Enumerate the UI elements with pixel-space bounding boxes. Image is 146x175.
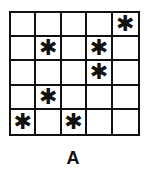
asterisk-grid: ✱ ✱ ✱ ✱ ✱ ✱ ✱ <box>9 11 140 136</box>
grid-cell-r1-c3 <box>62 13 87 37</box>
asterisk-icon: ✱ <box>62 110 87 134</box>
asterisk-icon: ✱ <box>87 61 112 85</box>
grid-cell-r2-c1 <box>11 37 36 61</box>
grid-cell-r3-c5 <box>113 61 138 85</box>
grid-cell-r3-c2 <box>36 61 61 85</box>
grid-cell-r1-c1 <box>11 13 36 37</box>
grid-cell-r1-c4 <box>87 13 112 37</box>
grid-cell-r4-c3 <box>62 86 87 110</box>
asterisk-icon: ✱ <box>36 86 61 110</box>
asterisk-icon: ✱ <box>113 13 138 37</box>
grid-cell-r5-c4 <box>87 110 112 134</box>
grid-cell-r4-c1 <box>11 86 36 110</box>
grid-cell-r3-c1 <box>11 61 36 85</box>
grid-cell-r2-c5 <box>113 37 138 61</box>
grid-cell-r5-c2 <box>36 110 61 134</box>
figure-label: A <box>0 148 146 169</box>
asterisk-icon: ✱ <box>11 110 36 134</box>
grid-cell-r4-c5 <box>113 86 138 110</box>
grid-cell-r4-c4 <box>87 86 112 110</box>
asterisk-icon: ✱ <box>87 37 112 61</box>
grid-cell-r3-c3 <box>62 61 87 85</box>
grid-cell-r2-c3 <box>62 37 87 61</box>
asterisk-icon: ✱ <box>36 37 61 61</box>
grid-cell-r1-c2 <box>36 13 61 37</box>
grid-cell-r5-c5 <box>113 110 138 134</box>
